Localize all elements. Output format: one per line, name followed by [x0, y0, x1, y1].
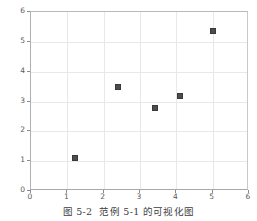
plot-area	[30, 11, 248, 190]
y-tick-label: 4	[5, 67, 25, 75]
caption-text: 范例 5-1 的可视化图	[99, 206, 194, 217]
x-tick-label: 5	[202, 193, 222, 201]
gridline-vertical	[104, 12, 105, 189]
x-tick-label: 2	[93, 193, 113, 201]
x-tick-label: 1	[56, 193, 76, 201]
gridline-vertical	[140, 12, 141, 189]
x-tick-label: 4	[165, 193, 185, 201]
figure-container: 0123456 0123456 图 5-2范例 5-1 的可视化图	[0, 0, 257, 221]
y-tick-label: 6	[5, 7, 25, 15]
gridline-horizontal	[31, 72, 247, 73]
gridline-horizontal	[31, 161, 247, 162]
gridline-horizontal	[31, 131, 247, 132]
data-point-marker	[115, 84, 121, 90]
y-tick-mark	[27, 160, 30, 161]
figure-caption: 图 5-2范例 5-1 的可视化图	[0, 206, 257, 218]
gridline-vertical	[176, 12, 177, 189]
y-tick-label: 1	[5, 156, 25, 164]
y-tick-mark	[27, 41, 30, 42]
y-tick-mark	[27, 130, 30, 131]
gridline-horizontal	[31, 42, 247, 43]
y-tick-label: 5	[5, 37, 25, 45]
data-point-marker	[152, 105, 158, 111]
gridline-vertical	[67, 12, 68, 189]
gridline-horizontal	[31, 102, 247, 103]
x-tick-label: 3	[129, 193, 149, 201]
data-point-marker	[177, 93, 183, 99]
data-point-marker	[210, 28, 216, 34]
gridline-vertical	[213, 12, 214, 189]
x-tick-label: 0	[20, 193, 40, 201]
caption-figure-number: 图 5-2	[63, 206, 93, 217]
y-tick-mark	[27, 71, 30, 72]
y-tick-mark	[27, 101, 30, 102]
y-tick-label: 3	[5, 97, 25, 105]
y-tick-label: 2	[5, 126, 25, 134]
data-point-marker	[72, 155, 78, 161]
x-tick-label: 6	[238, 193, 257, 201]
y-tick-mark	[27, 11, 30, 12]
